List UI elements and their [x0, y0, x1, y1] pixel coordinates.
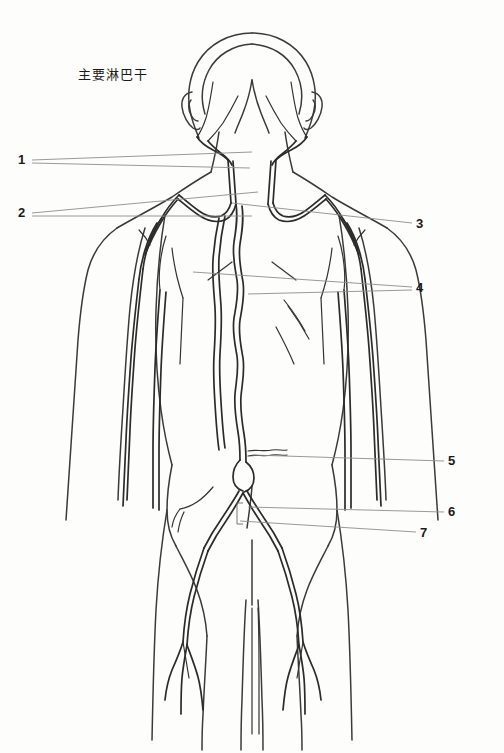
- leader-line-3: [232, 203, 412, 223]
- leader-line-group: [32, 152, 444, 532]
- callout-number-4: 4: [416, 281, 423, 294]
- callout-number-5: 5: [448, 454, 455, 467]
- anatomy-illustration: [0, 0, 504, 753]
- leader-line-4: [193, 272, 412, 287]
- leader-line-1: [32, 152, 252, 160]
- leader-line-1b: [32, 163, 250, 168]
- callout-number-6: 6: [448, 505, 455, 518]
- callout-number-1: 1: [18, 153, 25, 166]
- leader-line-2: [32, 192, 258, 213]
- leader-line-5: [252, 455, 444, 461]
- callout-number-7: 7: [420, 526, 427, 539]
- anatomy-figure: 主要淋巴干 1 2 3 4 5 6 7: [0, 0, 504, 753]
- figure-title: 主要淋巴干: [78, 64, 148, 83]
- leader-line-4b: [248, 290, 412, 294]
- callout-number-3: 3: [416, 217, 423, 230]
- lymphatic-vessel-group: [123, 82, 381, 734]
- callout-number-2: 2: [18, 206, 25, 219]
- leader-line-6: [248, 507, 444, 512]
